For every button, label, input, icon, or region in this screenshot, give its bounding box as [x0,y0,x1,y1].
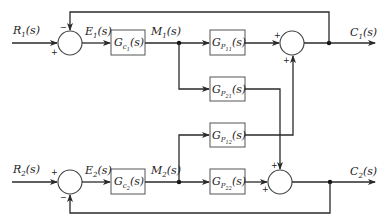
label-e2: E2(s) [84,164,112,179]
sign-sum3-bottom: + [283,56,290,65]
summing-junction-2 [58,170,82,194]
label-e1: E1(s) [84,25,112,40]
label-r1: R1(s) [12,24,40,39]
block-diagram: R1(s) R2(s) E1(s) E2(s) M1(s) M2(s) C1(s… [0,0,391,221]
cross-coupling [210,56,293,169]
label-m1: M1(s) [150,25,181,40]
label-c2: C2(s) [350,165,377,180]
sign-sum3-left: + [274,31,281,40]
sign-sum4-top: + [271,161,278,170]
m1-to-gp21-line [179,43,209,89]
label-m2: M2(s) [150,164,181,179]
m2-to-gp12-line [179,135,209,182]
summing-junction-4 [268,170,292,194]
gp21-to-sum4-line [245,89,280,169]
gp12-to-sum3-line [245,56,293,135]
sign-sum2-input: + [51,168,58,177]
sign-sum1-input: + [51,48,58,57]
sign-sum2-feedback: − [60,193,67,202]
summing-junction-3 [280,31,304,55]
label-r2: R2(s) [12,163,40,178]
label-c1: C1(s) [350,26,377,41]
sign-sum1-feedback: − [60,23,67,32]
summing-junction-1 [58,31,82,55]
sign-sum4-left: + [262,185,269,194]
